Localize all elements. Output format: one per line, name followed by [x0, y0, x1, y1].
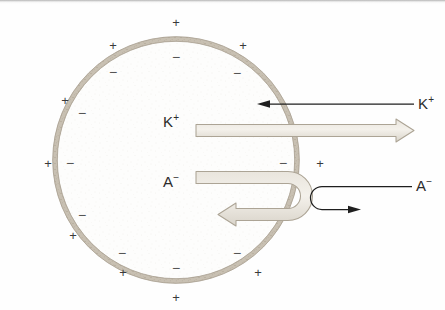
charge-minus-inside: −	[233, 66, 241, 80]
charge-minus-inside: −	[172, 261, 180, 275]
charge-plus-outside: +	[254, 266, 262, 279]
charge-plus-outside: +	[61, 94, 69, 107]
charge-plus-outside: +	[316, 157, 324, 170]
charge-plus-outside: +	[239, 39, 247, 52]
charge-minus-inside: −	[109, 65, 117, 79]
cell-group	[53, 37, 300, 284]
potassium-inside-label: K+	[163, 114, 179, 129]
charge-plus-outside: +	[44, 157, 52, 170]
charge-plus-outside: +	[109, 39, 117, 52]
charge-minus-inside: −	[66, 156, 74, 170]
charge-minus-inside: −	[78, 106, 86, 120]
charge-minus-inside: −	[279, 156, 287, 170]
anion-inside-label: A−	[163, 174, 179, 189]
charge-plus-outside: +	[172, 291, 180, 304]
charge-plus-outside: +	[69, 229, 77, 242]
charge-plus-outside: +	[172, 16, 180, 29]
cell-interior	[57, 41, 295, 279]
charge-minus-inside: −	[233, 246, 241, 260]
potassium-outside-label: K+	[418, 96, 434, 111]
charge-plus-outside: +	[119, 266, 127, 279]
anion-outside-blocked-arrow	[311, 187, 413, 214]
charge-minus-inside: −	[172, 50, 180, 64]
charge-minus-inside: −	[118, 246, 126, 260]
diagram-canvas: K+ K+ A− A− ++++++++++−−−−−−−−−−	[0, 0, 445, 310]
anion-outside-label: A−	[416, 178, 432, 193]
charge-minus-inside: −	[78, 208, 86, 222]
